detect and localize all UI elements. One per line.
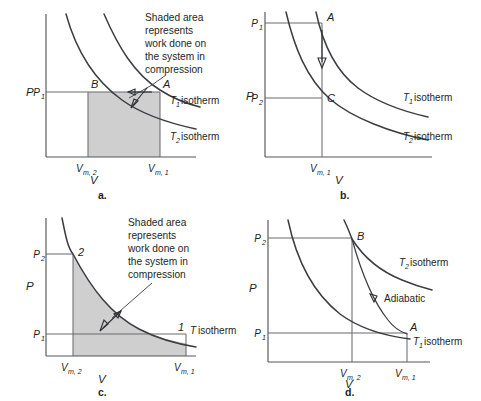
panel-d-adiabatic-label: Adiabatic — [384, 293, 425, 304]
panel-c-note-line-2: represents — [128, 230, 176, 241]
panel-a-t2-sub: 2 — [175, 137, 180, 144]
panel-c: P V P 2 P 1 V m, 2 V m, 1 2 1 T isotherm… — [26, 217, 236, 398]
panel-c-point-1: 1 — [178, 321, 184, 333]
panel-d-t1-sub: 1 — [419, 342, 423, 349]
panel-a-xtick-vm1-sub: m, 1 — [155, 169, 169, 176]
panel-b-t2-isotherm-curve — [286, 12, 428, 140]
panel-d-t2-isotherm-label: T 2 isotherm — [399, 257, 448, 270]
panel-a-t1-text: isotherm — [181, 95, 219, 106]
panel-a-note-line-2: represents — [145, 25, 193, 36]
panel-d-xtick-vm1: V m, 1 — [395, 368, 416, 381]
panel-c-xtick-vm1: V m, 1 — [174, 362, 195, 375]
panel-b-caption: b. — [340, 189, 349, 201]
panel-b-t1-text: isotherm — [414, 92, 452, 103]
panel-c-note-line-5: compression — [128, 269, 186, 280]
panel-c-ytick-p1: P 1 — [33, 329, 45, 342]
panel-a-t2-text: isotherm — [181, 131, 219, 142]
panel-c-point-2: 2 — [77, 246, 84, 258]
panel-a-note-line-5: compression — [145, 64, 203, 75]
panel-b-t1-isotherm-label: T 1 isotherm — [403, 92, 452, 105]
panel-d-ytick-p2-symbol: P — [254, 233, 261, 244]
panel-d-ytick-p1: P 1 — [254, 328, 266, 341]
panel-c-t-text: isotherm — [198, 325, 236, 336]
panel-a-t2-isotherm-label: T 2 isotherm — [170, 131, 219, 144]
panel-c-x-axis-label: V — [98, 373, 107, 385]
panel-d-point-b: B — [357, 230, 364, 242]
panel-d-caption: d. — [345, 386, 354, 398]
panel-b-ytick-p2-sub: 2 — [258, 99, 263, 106]
panel-d-t2-text: isotherm — [410, 257, 448, 268]
panel-a-xtick-vm1: V m, 1 — [148, 163, 169, 176]
panel-c-ytick-p2: P 2 — [33, 249, 45, 262]
panel-c-ytick-p1-sub: 1 — [41, 335, 45, 342]
panel-c-note-line-1: Shaded area — [128, 217, 187, 228]
panel-b-t1-sub: 1 — [409, 98, 413, 105]
panel-a-xtick-vm2: V m, 2 — [76, 163, 97, 176]
panel-b: P V P 1 P 2 V m, 1 A C T 1 isotherm T 2 … — [246, 11, 452, 201]
panel-c-note: Shaded area represents work done on the … — [127, 217, 189, 280]
panel-b-ytick-p1: P 1 — [251, 18, 263, 31]
panel-d-t1-isotherm-label: T 1 isotherm — [413, 336, 462, 349]
panel-b-t2-isotherm-label: T 2 isotherm — [403, 131, 452, 144]
panel-a-ytick-p1-sub: 1 — [41, 93, 45, 100]
panel-b-xtick-vm1: V m, 1 — [310, 163, 331, 176]
panel-a-note-line-3: work done on — [144, 38, 206, 49]
panel-d-ytick-p1-symbol: P — [254, 328, 261, 339]
panel-d-adiabatic-curve — [352, 239, 407, 334]
panel-b-point-c: C — [327, 92, 335, 104]
panel-d-point-a: A — [409, 321, 417, 333]
panel-d-ytick-p2-sub: 2 — [261, 239, 266, 246]
panel-c-note-line-3: work done on — [127, 243, 189, 254]
panel-c-t-isotherm-label: T isotherm — [190, 325, 236, 336]
panel-d-xtick-vm1-sub: m, 1 — [402, 374, 416, 381]
panel-b-ytick-p2-symbol: P — [251, 93, 258, 104]
panel-a-ytick-p1-symbol: P — [33, 87, 40, 98]
panel-c-ytick-p2-sub: 2 — [40, 255, 45, 262]
panel-d-y-axis-label: P — [249, 282, 257, 294]
panel-c-t-symbol: T — [190, 325, 197, 336]
panel-d-t2-sub: 2 — [404, 263, 409, 270]
panel-b-point-a: A — [326, 11, 334, 23]
panel-a-note-line-1: Shaded area — [145, 12, 204, 23]
panel-a-note-line-4: the system in — [145, 51, 205, 62]
panel-d-ytick-p1-sub: 1 — [262, 334, 266, 341]
panel-a-point-b: B — [91, 78, 98, 90]
panel-c-xtick-vm1-sub: m, 1 — [181, 368, 195, 375]
figure-svg: P V P 1 V m, 2 V m, 1 B A T 1 isotherm T… — [0, 0, 481, 401]
panel-a: P V P 1 V m, 2 V m, 1 B A T 1 isotherm T… — [26, 12, 219, 201]
panel-b-xtick-vm1-sub: m, 1 — [317, 169, 331, 176]
panel-c-xtick-vm2-sub: m, 2 — [68, 368, 82, 375]
panel-a-point-a: A — [162, 78, 170, 90]
panel-a-xtick-vm2-sub: m, 2 — [83, 169, 97, 176]
panel-d-xtick-vm2-sub: m, 2 — [347, 374, 361, 381]
panel-b-x-axis-label: V — [335, 174, 344, 186]
panel-b-ytick-p1-sub: 1 — [259, 24, 263, 31]
panel-a-caption: a. — [98, 189, 107, 201]
panel-c-ytick-p2-symbol: P — [33, 249, 40, 260]
pv-diagram-figure: P V P 1 V m, 2 V m, 1 B A T 1 isotherm T… — [0, 0, 481, 401]
panel-d-xtick-vm2: V m, 2 — [340, 368, 361, 381]
panel-c-ytick-p1-symbol: P — [33, 329, 40, 340]
panel-c-caption: c. — [98, 386, 107, 398]
panel-d: P V P 2 P 1 V m, 2 V m, 1 B A T 2 isothe… — [249, 220, 462, 398]
panel-a-note: Shaded area represents work done on the … — [144, 12, 206, 75]
panel-a-ytick-p1: P 1 — [33, 87, 45, 100]
panel-d-t1-text: isotherm — [424, 336, 462, 347]
panel-b-ytick-p2: P 2 — [251, 93, 263, 106]
panel-b-t2-text: isotherm — [414, 131, 452, 142]
panel-a-t1-sub: 1 — [176, 101, 180, 108]
panel-c-y-axis-label: P — [26, 280, 34, 292]
panel-c-note-line-4: the system in — [128, 256, 188, 267]
panel-c-xtick-vm2: V m, 2 — [61, 362, 82, 375]
panel-b-ytick-p1-symbol: P — [251, 18, 258, 29]
panel-b-t2-sub: 2 — [408, 137, 413, 144]
panel-d-ytick-p2: P 2 — [254, 233, 266, 246]
